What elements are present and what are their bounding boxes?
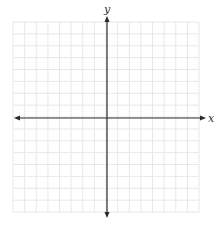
y-axis-label: y (103, 3, 111, 16)
y-axis-top-arrow-icon (105, 16, 110, 22)
x-axis-right-arrow-icon (200, 116, 206, 121)
x-axis-left-arrow-icon (14, 116, 20, 121)
coordinate-plane: x y (0, 0, 218, 233)
y-axis-bottom-arrow-icon (105, 212, 110, 218)
grid (13, 22, 199, 212)
x-axis-label: x (208, 112, 215, 125)
